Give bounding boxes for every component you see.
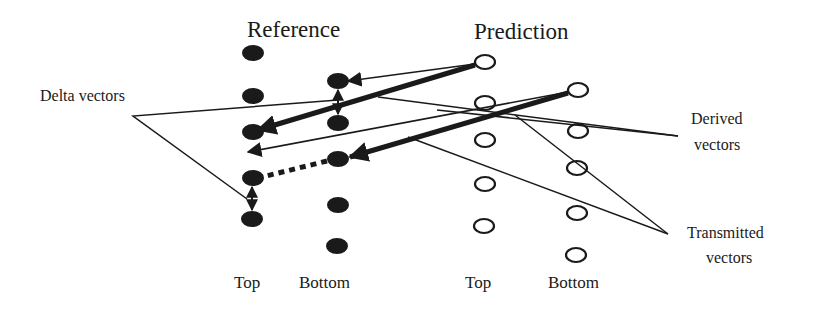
transmitted-vectors-label-line1: Transmitted bbox=[687, 224, 764, 241]
ref-top-pixel bbox=[241, 211, 263, 227]
derived-vectors-label-line1: Derived bbox=[691, 110, 743, 127]
pred-bottom-caption: Bottom bbox=[548, 273, 599, 292]
ref-bottom-pixel bbox=[327, 151, 349, 167]
ref-top-pixel bbox=[242, 88, 264, 104]
pred-top-caption: Top bbox=[465, 273, 491, 292]
reference-heading: Reference bbox=[247, 17, 340, 42]
pred-top-pixel bbox=[475, 133, 495, 147]
transmitted-vectors-label-line2: vectors bbox=[706, 249, 752, 266]
ref-top-pixel bbox=[242, 170, 264, 186]
transmitted-vector-arrow bbox=[350, 93, 568, 157]
delta-vectors-label: Delta vectors bbox=[40, 87, 125, 104]
dashed-extension bbox=[262, 161, 327, 177]
pred-bottom-pixel bbox=[567, 206, 587, 220]
pred-top-pixel bbox=[475, 177, 495, 191]
pred-bottom-pixel bbox=[566, 248, 586, 262]
transmitted-vector-arrow bbox=[258, 65, 475, 130]
ref-bottom-pixel bbox=[326, 238, 348, 254]
pred-bottom-pixel bbox=[568, 83, 588, 97]
pred-top-pixel bbox=[474, 219, 494, 233]
ref-bottom-pixel bbox=[327, 197, 349, 213]
pred-top-pixel bbox=[475, 55, 495, 69]
transmitted-leader-lines bbox=[408, 115, 668, 234]
prediction-top-field bbox=[474, 55, 495, 233]
prediction-heading: Prediction bbox=[474, 19, 569, 44]
derived-vectors-label-line2: vectors bbox=[694, 136, 740, 153]
ref-top-pixel bbox=[242, 124, 264, 140]
field-motion-vector-diagram: Reference Prediction bbox=[0, 0, 826, 309]
ref-bottom-caption: Bottom bbox=[299, 273, 350, 292]
ref-top-caption: Top bbox=[234, 273, 260, 292]
prediction-bottom-field bbox=[566, 83, 588, 262]
ref-top-pixel bbox=[242, 45, 264, 61]
ref-bottom-pixel bbox=[327, 115, 349, 131]
ref-bottom-pixel bbox=[327, 73, 349, 89]
